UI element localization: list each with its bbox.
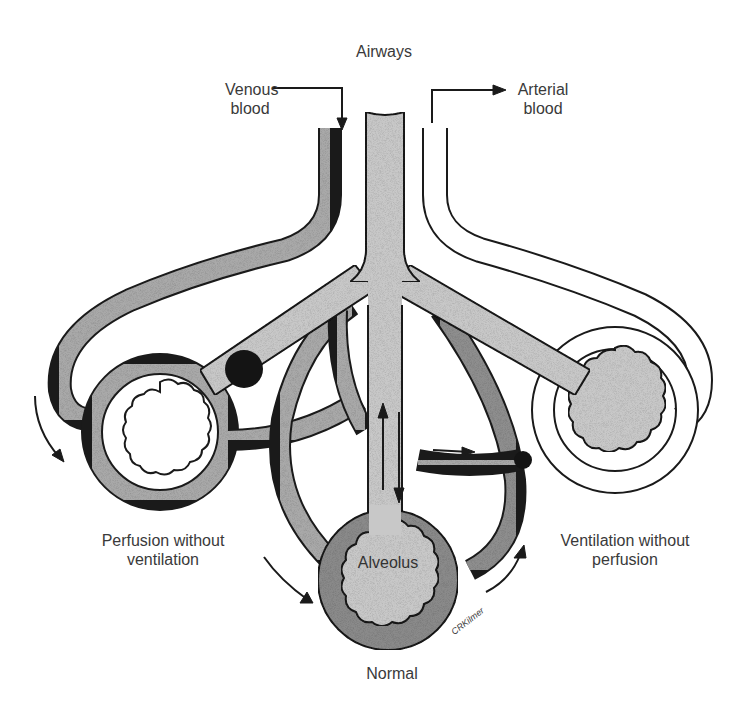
arterial-arrowhead-icon: [493, 85, 506, 95]
label-left-line2: ventilation: [88, 550, 238, 569]
label-venous-line1: Venous: [225, 80, 275, 99]
label-airways: Airways: [352, 42, 416, 61]
label-ventilation-without-perfusion: Ventilation without perfusion: [550, 531, 700, 569]
capillary-blockage-right: [514, 451, 532, 469]
normal-alveolus: [318, 505, 458, 650]
label-right-line1: Ventilation without: [550, 531, 700, 550]
label-arterial-line2: blood: [513, 99, 573, 118]
label-arterial-line1: Arterial: [513, 80, 573, 99]
flow-arrow-normal-in-icon: [300, 592, 313, 603]
label-venous-line2: blood: [225, 99, 275, 118]
label-arterial-blood: Arterial blood: [513, 80, 573, 118]
label-alveolus: Alveolus: [348, 553, 428, 572]
flow-arrow-normal-out-icon: [514, 545, 526, 558]
ventilation-perfusion-diagram: [0, 0, 748, 707]
label-perfusion-without-ventilation: Perfusion without ventilation: [88, 531, 238, 569]
airway-blockage-left: [225, 350, 263, 388]
label-right-line2: perfusion: [550, 550, 700, 569]
label-left-line1: Perfusion without: [88, 531, 238, 550]
label-normal: Normal: [357, 664, 427, 683]
label-venous-blood: Venous blood: [225, 80, 275, 118]
diagram-canvas: Airways Venous blood Arterial blood Alve…: [0, 0, 748, 707]
